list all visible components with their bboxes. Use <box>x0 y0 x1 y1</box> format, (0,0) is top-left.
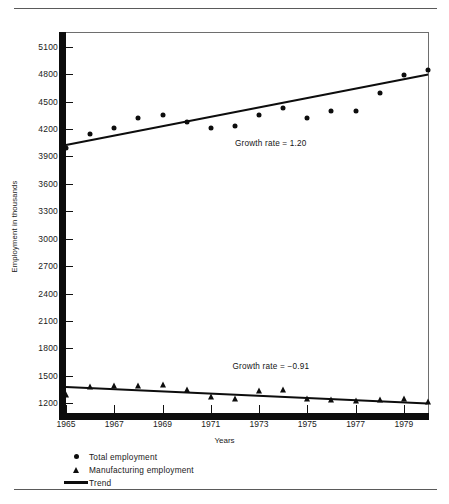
data-point-total-employment <box>184 119 189 124</box>
data-point-manufacturing-employment <box>184 387 190 393</box>
legend-item-manufacturing-employment: Manufacturing employment <box>63 463 393 476</box>
circle-marker-icon <box>63 454 89 459</box>
y-tick-label: 3600 <box>16 179 58 189</box>
data-point-total-employment <box>329 108 334 113</box>
plot-area <box>66 33 428 417</box>
data-point-manufacturing-employment <box>280 387 286 393</box>
legend-label: Total employment <box>89 452 157 462</box>
data-point-manufacturing-employment <box>256 388 262 394</box>
data-point-manufacturing-employment <box>401 396 407 402</box>
data-point-total-employment <box>112 125 117 130</box>
data-point-total-employment <box>401 73 406 78</box>
data-point-total-employment <box>232 124 237 129</box>
x-tick-label: 1977 <box>346 419 365 429</box>
data-point-manufacturing-employment <box>63 391 69 397</box>
y-tick-label: 4200 <box>16 124 58 134</box>
data-point-manufacturing-employment <box>377 396 383 402</box>
data-point-manufacturing-employment <box>304 395 310 401</box>
data-point-manufacturing-employment <box>232 395 238 401</box>
data-point-manufacturing-employment <box>135 382 141 388</box>
x-tick-label: 1975 <box>298 419 317 429</box>
data-point-total-employment <box>257 112 262 117</box>
legend-item-total-employment: Total employment <box>63 450 393 463</box>
data-point-total-employment <box>64 146 69 151</box>
y-tick-label: 2400 <box>16 289 58 299</box>
data-point-total-employment <box>136 116 141 121</box>
triangle-marker-icon <box>63 467 89 473</box>
x-axis-title: Years <box>0 436 449 445</box>
y-axis-title: Employment in thousands <box>10 137 19 317</box>
y-tick-label: 1800 <box>16 343 58 353</box>
y-tick-label: 1200 <box>16 398 58 408</box>
y-tick-label: 2700 <box>16 261 58 271</box>
data-point-total-employment <box>88 132 93 137</box>
x-tick-label: 1973 <box>250 419 269 429</box>
data-point-total-employment <box>426 68 431 73</box>
data-point-total-employment <box>160 112 165 117</box>
y-tick-label: 1500 <box>16 371 58 381</box>
data-point-manufacturing-employment <box>353 397 359 403</box>
data-point-manufacturing-employment <box>111 382 117 388</box>
data-point-total-employment <box>281 105 286 110</box>
data-point-total-employment <box>377 90 382 95</box>
data-point-manufacturing-employment <box>425 399 431 405</box>
x-tick-label: 1979 <box>394 419 413 429</box>
y-tick-label: 3900 <box>16 151 58 161</box>
data-point-manufacturing-employment <box>87 383 93 389</box>
data-point-manufacturing-employment <box>208 393 214 399</box>
y-tick-label: 3300 <box>16 206 58 216</box>
data-point-total-employment <box>208 125 213 130</box>
data-point-total-employment <box>305 115 310 120</box>
x-tick-label: 1971 <box>201 419 220 429</box>
x-tick-label: 1969 <box>153 419 172 429</box>
chart-legend: Total employment Manufacturing employmen… <box>63 450 393 489</box>
legend-item-trend: Trend <box>63 476 393 489</box>
chart-figure: 5100480045004200390036003300300027002400… <box>0 0 449 504</box>
y-axis-spine <box>59 32 66 418</box>
y-axis-tick-labels: 5100480045004200390036003300300027002400… <box>14 0 58 504</box>
y-tick-label: 5100 <box>16 42 58 52</box>
x-tick-label: 1967 <box>105 419 124 429</box>
legend-label: Manufacturing employment <box>89 465 194 475</box>
annotation-growth-rate-manufacturing: Growth rate = −0.91 <box>233 362 310 371</box>
y-tick-label: 3000 <box>16 234 58 244</box>
data-point-total-employment <box>353 108 358 113</box>
annotation-growth-rate-total: Growth rate = 1.20 <box>235 139 307 148</box>
y-tick-label: 2100 <box>16 316 58 326</box>
top-divider-rule <box>14 8 437 9</box>
legend-label: Trend <box>89 478 111 488</box>
data-point-manufacturing-employment <box>328 396 334 402</box>
y-tick-label: 4800 <box>16 69 58 79</box>
plot-frame-right <box>428 32 429 418</box>
y-tick-label: 4500 <box>16 97 58 107</box>
bottom-divider-rule <box>14 489 437 490</box>
line-marker-icon <box>63 481 89 485</box>
x-tick-label: 1965 <box>57 419 76 429</box>
data-point-manufacturing-employment <box>160 381 166 387</box>
